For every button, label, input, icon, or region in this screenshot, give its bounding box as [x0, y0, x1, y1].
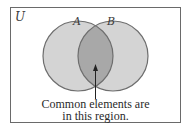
caption-line-2: in this region. [10, 110, 181, 122]
set-b-label: B [106, 15, 115, 28]
universe-label: U [15, 10, 26, 24]
set-a-label: A [72, 15, 81, 28]
